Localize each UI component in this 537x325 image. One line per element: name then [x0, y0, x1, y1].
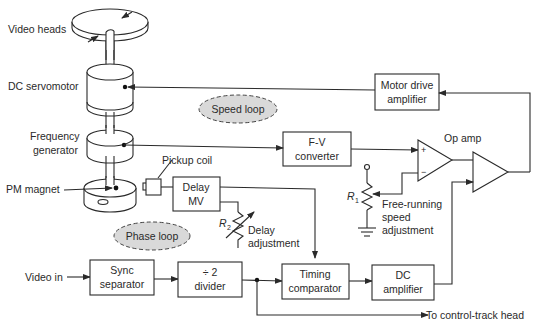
svg-text:DC: DC — [395, 269, 411, 281]
r1-potentiometer — [358, 165, 376, 237]
servo-block-diagram: Video heads DC servomotor Frequency gene… — [0, 0, 537, 325]
svg-text:F-V: F-V — [309, 136, 326, 148]
dc-amplifier-block: DC amplifier — [372, 265, 434, 300]
dc-servomotor — [87, 50, 133, 128]
phase-loop-label: Phase loop — [126, 230, 179, 242]
video-head-drum — [72, 9, 148, 60]
pm-magnet-disk — [84, 176, 136, 212]
svg-text:Timing: Timing — [299, 268, 330, 280]
label-pickup-coil: Pickup coil — [162, 154, 212, 166]
svg-text:amplifier: amplifier — [387, 93, 427, 105]
fv-converter-block: F-V converter — [283, 132, 351, 166]
label-free-running-2: speed — [382, 211, 411, 223]
svg-text:amplifier: amplifier — [383, 283, 423, 295]
label-frequency-generator-2: generator — [33, 144, 78, 156]
svg-text:+: + — [421, 145, 426, 155]
op-amp-1: + − — [418, 140, 452, 181]
label-video-in: Video in — [25, 271, 63, 283]
label-op-amp: Op amp — [444, 132, 482, 144]
frequency-generator — [87, 125, 133, 182]
pickup-coil — [143, 179, 161, 195]
op-amp-2 — [473, 152, 508, 192]
svg-text:1: 1 — [355, 197, 359, 204]
label-delay-adjustment-1: Delay — [248, 224, 276, 236]
label-free-running-3: adjustment — [382, 224, 433, 236]
svg-text:Sync: Sync — [110, 264, 133, 276]
sync-separator-block: Sync separator — [90, 260, 154, 295]
label-to-control-track-head: To control-track head — [426, 309, 524, 321]
svg-text:Motor drive: Motor drive — [381, 79, 434, 91]
label-r1: R — [347, 190, 355, 202]
label-free-running-1: Free-running — [382, 198, 442, 210]
svg-text:divider: divider — [195, 280, 226, 292]
svg-text:separator: separator — [100, 278, 145, 290]
svg-text:−: − — [421, 167, 426, 177]
label-video-heads: Video heads — [8, 23, 66, 35]
divider-block: ÷ 2 divider — [178, 262, 242, 297]
svg-text:MV: MV — [188, 195, 204, 207]
timing-comparator-block: Timing comparator — [282, 264, 349, 299]
label-r2: R — [219, 217, 227, 229]
delay-mv-block: Delay MV — [173, 177, 220, 211]
svg-text:Delay: Delay — [183, 181, 211, 193]
label-dc-servomotor: DC servomotor — [8, 80, 79, 92]
svg-text:converter: converter — [295, 150, 339, 162]
svg-text:÷ 2: ÷ 2 — [203, 266, 218, 278]
label-delay-adjustment-2: adjustment — [248, 237, 299, 249]
speed-loop-label: Speed loop — [211, 103, 264, 115]
svg-text:2: 2 — [227, 224, 231, 231]
motor-drive-amplifier-block: Motor drive amplifier — [375, 74, 439, 110]
label-frequency-generator-1: Frequency — [30, 130, 80, 142]
label-pm-magnet: PM magnet — [6, 183, 60, 195]
svg-text:comparator: comparator — [288, 282, 342, 294]
